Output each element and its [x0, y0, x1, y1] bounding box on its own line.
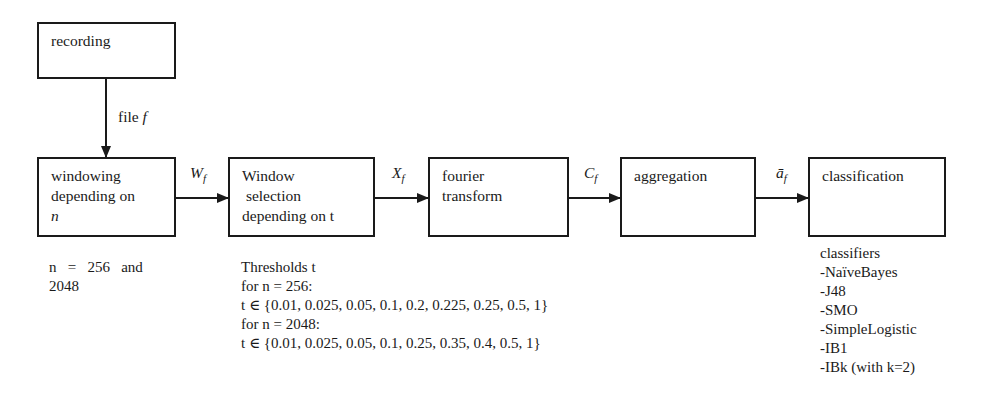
node-label: n — [51, 206, 174, 226]
edge-label-text: C — [584, 164, 594, 181]
node-label: selection — [242, 186, 373, 206]
node-label: fourier — [442, 166, 567, 186]
edge-label-text: file — [118, 108, 143, 125]
thresholds-title: Thresholds t — [241, 258, 548, 277]
node-label: depending on t — [242, 206, 373, 226]
edge-label-text: ā — [776, 164, 784, 181]
node-aggregation: aggregation — [620, 157, 756, 237]
edge-label-sub: f — [594, 172, 597, 184]
classifier-item: -NaïveBayes — [820, 263, 917, 282]
classifier-item: -SMO — [820, 301, 917, 320]
thresholds-note: Thresholds t for n = 256: t ∈ {0.01, 0.0… — [241, 258, 548, 353]
node-fourier-transform: fourier transform — [428, 157, 569, 237]
edge-label-cf: Cf — [584, 163, 597, 188]
note-line: n = 256 and — [49, 258, 143, 277]
node-label: aggregation — [634, 166, 754, 186]
node-label: Window — [242, 166, 373, 186]
thresholds-n2048-label: for n = 2048: — [241, 315, 548, 334]
edge-label-sub: f — [401, 172, 404, 184]
windowing-note: n = 256 and 2048 — [49, 258, 143, 296]
thresholds-n256-label: for n = 256: — [241, 277, 548, 296]
classifier-item: -SimpleLogistic — [820, 320, 917, 339]
edge-label-file: file f — [118, 107, 147, 127]
node-label: transform — [442, 186, 567, 206]
classifier-item: -IBk (with k=2) — [820, 358, 917, 377]
thresholds-n256-set: t ∈ {0.01, 0.025, 0.05, 0.1, 0.2, 0.225,… — [241, 296, 548, 315]
classifier-item: -J48 — [820, 282, 917, 301]
node-recording: recording — [37, 22, 176, 79]
node-label: recording — [51, 31, 174, 51]
edge-label-var: f — [143, 108, 147, 125]
node-windowing: windowing depending on n — [37, 157, 176, 237]
edge-label-sub: f — [203, 172, 206, 184]
classifiers-title: classifiers — [820, 244, 917, 263]
node-label: depending on — [51, 186, 174, 206]
edge-label-sub: f — [784, 172, 787, 184]
edge-label-af: āf — [776, 163, 787, 188]
node-classification: classification — [808, 157, 946, 237]
classifiers-note: classifiers -NaïveBayes -J48 -SMO -Simpl… — [820, 244, 917, 377]
edge-label-text: W — [190, 164, 203, 181]
edge-label-xf: Xf — [392, 163, 405, 188]
thresholds-n2048-set: t ∈ {0.01, 0.025, 0.05, 0.1, 0.25, 0.35,… — [241, 334, 548, 353]
node-label: windowing — [51, 166, 174, 186]
note-line: 2048 — [49, 277, 143, 296]
edge-label-wf: Wf — [190, 163, 206, 188]
node-window-selection: Window selection depending on t — [228, 157, 375, 237]
node-label: classification — [822, 166, 944, 186]
classifier-item: -IB1 — [820, 339, 917, 358]
